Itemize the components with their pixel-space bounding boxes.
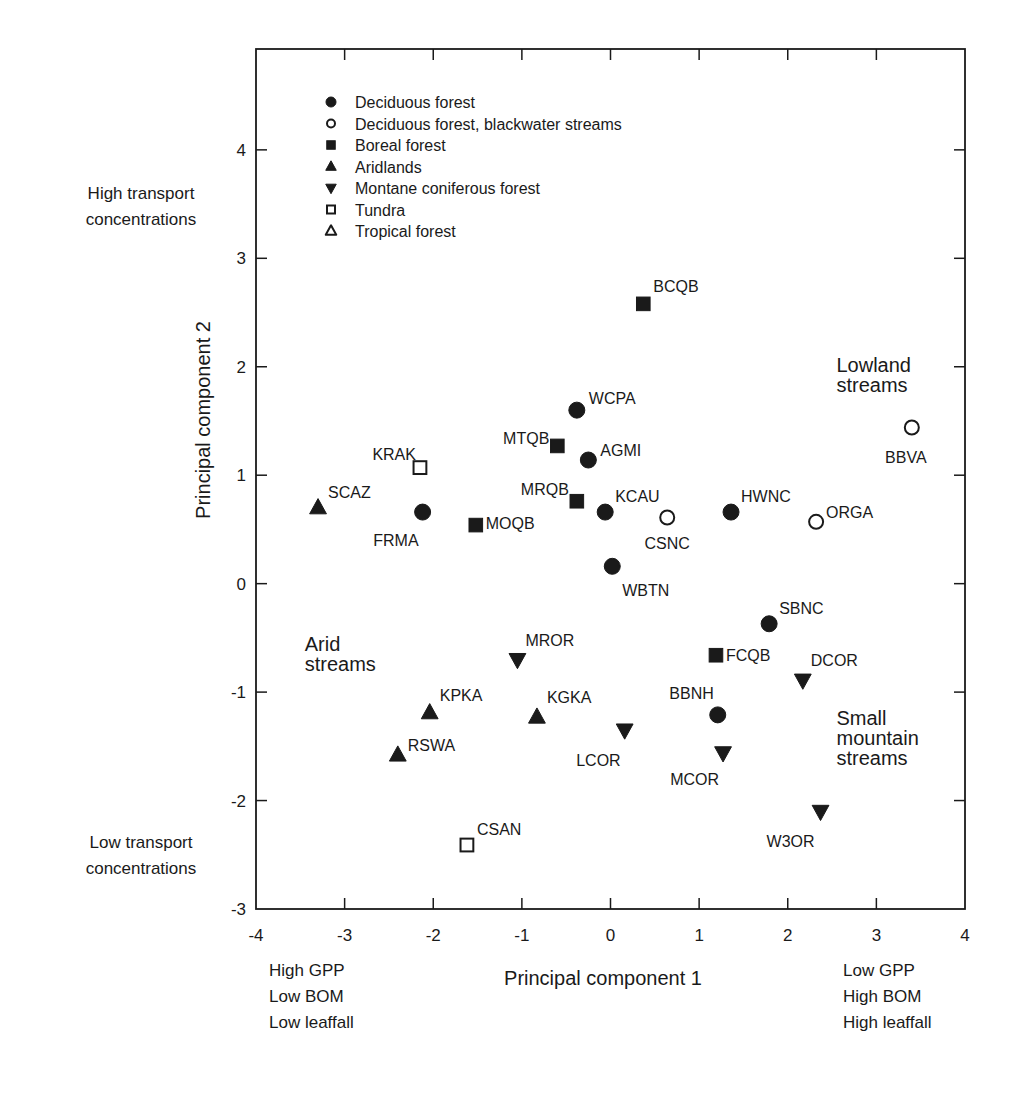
x-tick-label: -2 <box>426 926 441 945</box>
filled-triangle-down-marker <box>715 747 732 762</box>
side-note-line: High GPP <box>269 961 345 980</box>
point-label: KGKA <box>547 689 592 706</box>
data-point-lcor: LCOR <box>576 724 633 769</box>
legend-item-tundra: Tundra <box>327 202 405 219</box>
side-note-y-low: Low transportconcentrations <box>86 833 197 878</box>
point-label: SCAZ <box>328 484 371 501</box>
y-tick-label: 2 <box>237 358 246 377</box>
data-point-mcor: MCOR <box>670 747 731 788</box>
x-tick-label: -3 <box>337 926 352 945</box>
point-label: RSWA <box>408 737 456 754</box>
filled-circle-marker <box>569 402 585 418</box>
legend-label: Boreal forest <box>355 137 446 154</box>
data-points: BCQBWCPAMTQBAGMIKRAKSCAZFRMAMOQBMRQBKCAU… <box>310 278 927 852</box>
open-circle-marker <box>660 510 674 524</box>
legend-item-deciduous: Deciduous forest <box>326 94 476 111</box>
open-circle-icon <box>327 120 335 128</box>
legend-item-tropical: Tropical forest <box>326 223 457 240</box>
annotation-line: streams <box>836 374 907 396</box>
x-tick-label: -4 <box>248 926 263 945</box>
point-label: WBTN <box>622 582 669 599</box>
legend-item-montane: Montane coniferous forest <box>326 180 541 197</box>
side-note-line: High leaffall <box>843 1013 932 1032</box>
filled-square-marker <box>469 518 483 532</box>
data-point-sbnc: SBNC <box>761 600 823 632</box>
x-tick-label: 4 <box>960 926 969 945</box>
side-note-line: Low BOM <box>269 987 344 1006</box>
point-label: BCQB <box>653 278 698 295</box>
filled-triangle-down-marker <box>794 674 811 689</box>
data-point-bbnh: BBNH <box>669 685 725 723</box>
x-tick-label: 3 <box>872 926 881 945</box>
legend-label: Tropical forest <box>355 223 456 240</box>
open-square-marker <box>414 461 427 474</box>
legend-label: Montane coniferous forest <box>355 180 541 197</box>
legend-item-blackwater: Deciduous forest, blackwater streams <box>327 116 622 133</box>
filled-triangle-down-marker <box>812 805 829 820</box>
data-point-frma: FRMA <box>373 504 430 549</box>
x-axis-title: Principal component 1 <box>504 967 702 989</box>
point-label: AGMI <box>600 442 641 459</box>
point-label: MROR <box>525 632 574 649</box>
filled-triangle-up-icon <box>326 161 337 171</box>
data-point-mtqb: MTQB <box>503 430 564 453</box>
filled-circle-marker <box>710 707 726 723</box>
annotation-line: streams <box>836 747 907 769</box>
filled-square-marker <box>709 648 723 662</box>
annotation-line: Lowland <box>836 354 911 376</box>
side-note-x-low: High GPPLow BOMLow leaffall <box>269 961 354 1032</box>
legend-label: Deciduous forest, blackwater streams <box>355 116 622 133</box>
filled-triangle-down-marker <box>509 653 526 668</box>
point-label: CSAN <box>477 821 521 838</box>
filled-triangle-down-marker <box>616 724 633 739</box>
filled-circle-marker <box>604 558 620 574</box>
legend-label: Deciduous forest <box>355 94 476 111</box>
filled-square-marker <box>636 297 650 311</box>
point-label: W3OR <box>767 833 815 850</box>
data-point-mror: MROR <box>509 632 574 669</box>
point-label: MOQB <box>486 515 535 532</box>
filled-triangle-down-icon <box>326 184 337 194</box>
side-note-line: Low leaffall <box>269 1013 354 1032</box>
filled-triangle-up-marker <box>389 746 406 761</box>
y-tick-label: 3 <box>237 249 246 268</box>
point-label: BBNH <box>669 685 713 702</box>
legend-item-aridlands: Aridlands <box>326 159 422 176</box>
data-point-agmi: AGMI <box>580 442 641 468</box>
data-point-mrqb: MRQB <box>521 481 584 508</box>
filled-circle-icon <box>326 97 336 107</box>
x-tick-label: -1 <box>514 926 529 945</box>
data-point-rswa: RSWA <box>389 737 455 761</box>
annotation-line: mountain <box>836 727 918 749</box>
filled-circle-marker <box>597 504 613 520</box>
point-label: SBNC <box>779 600 823 617</box>
side-note-line: High transport <box>88 184 195 203</box>
data-point-krak: KRAK <box>372 446 426 474</box>
side-note-y-high: High transportconcentrations <box>86 184 197 229</box>
side-note-x-high: Low GPPHigh BOMHigh leaffall <box>843 961 932 1032</box>
point-label: KRAK <box>372 446 416 463</box>
point-label: MRQB <box>521 481 569 498</box>
data-point-orga: ORGA <box>809 504 873 529</box>
legend-item-boreal: Boreal forest <box>327 137 447 154</box>
y-tick-label: -3 <box>231 900 246 919</box>
annotation-line: streams <box>305 653 376 675</box>
y-tick-label: 0 <box>237 575 246 594</box>
filled-triangle-up-marker <box>529 708 546 723</box>
data-point-csnc: CSNC <box>645 510 690 552</box>
data-point-w3or: W3OR <box>767 805 829 850</box>
filled-circle-marker <box>580 452 596 468</box>
data-point-hwnc: HWNC <box>723 488 791 520</box>
filled-triangle-up-marker <box>310 499 327 514</box>
y-tick-label: 4 <box>237 141 246 160</box>
open-square-marker <box>461 839 474 852</box>
open-circle-marker <box>905 420 919 434</box>
open-square-icon <box>327 206 335 214</box>
data-point-kpka: KPKA <box>421 687 482 719</box>
data-point-wcpa: WCPA <box>569 390 636 418</box>
filled-square-marker <box>551 439 565 453</box>
point-label: KCAU <box>615 488 659 505</box>
point-label: MTQB <box>503 430 549 447</box>
annotation-mountain: Smallmountainstreams <box>836 707 918 769</box>
legend-label: Tundra <box>355 202 405 219</box>
